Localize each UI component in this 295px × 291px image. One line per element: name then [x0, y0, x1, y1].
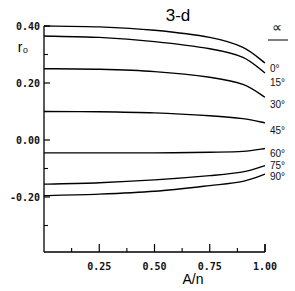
curve-15deg — [44, 36, 265, 73]
x-tick-label: 0.25 — [87, 261, 111, 272]
curves — [44, 26, 265, 196]
chart-title: 3-d — [166, 6, 191, 25]
x-axis-title: A/n — [182, 271, 203, 287]
legend-label: 45° — [270, 125, 285, 136]
curve-90deg — [44, 174, 265, 195]
curve-30deg — [44, 69, 265, 98]
legend: 0°15°30°45°60°75°90° — [270, 63, 285, 182]
x-ticks: 0.250.500.751.00 — [72, 244, 277, 272]
legend-label: 90° — [270, 171, 285, 182]
y-tick-label: 0.40 — [16, 21, 40, 32]
legend-label: 75° — [270, 160, 285, 171]
legend-label: 0° — [270, 63, 280, 74]
curve-0deg — [44, 26, 265, 63]
x-tick-label: 0.50 — [142, 261, 166, 272]
curve-60deg — [44, 149, 265, 153]
curve-45deg — [44, 112, 265, 123]
legend-label: 15° — [270, 77, 285, 88]
legend-label: 60° — [270, 148, 285, 159]
y-tick-label: 0.20 — [16, 78, 40, 89]
x-tick-label: 1.00 — [253, 261, 277, 272]
y-tick-label: -0.20 — [10, 192, 40, 203]
line-chart: 3-d 0.400.200.00-0.20 0.250.500.751.00 r… — [0, 0, 295, 291]
legend-title: ∝ — [272, 19, 282, 35]
y-tick-label: 0.00 — [16, 135, 40, 146]
legend-label: 30° — [270, 99, 285, 110]
axes — [44, 26, 265, 252]
y-axis-title: r₀ — [18, 39, 29, 55]
curve-75deg — [44, 166, 265, 185]
